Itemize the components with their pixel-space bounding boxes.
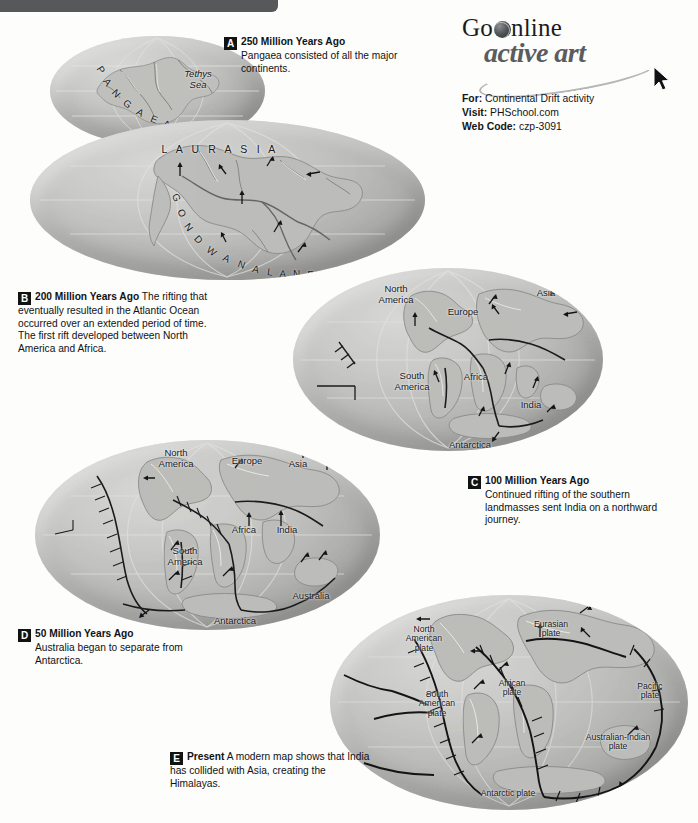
continents-present (330, 595, 688, 810)
step-badge-c: C (468, 476, 481, 489)
step-heading-b: 200 Million Years Ago (35, 291, 139, 302)
step-badge-d: D (18, 629, 31, 642)
logo-info-block: For: Continental Drift activity Visit: P… (462, 92, 594, 134)
logo-webcode-label: Web Code: (462, 121, 516, 132)
caption-step-e: EPresent A modern map shows that India h… (170, 751, 378, 790)
caption-step-b: B200 Million Years Ago The rifting that … (18, 291, 208, 355)
active-art-logo[interactable]: Gonline active art For: Continental Drif… (462, 14, 698, 68)
step-text-d: Australia began to separate from Antarct… (18, 642, 208, 667)
globe-100-mya: North America Europe Asia South America … (293, 268, 603, 451)
step-badge-b: B (18, 292, 31, 305)
continents-100-mya (293, 268, 603, 451)
globe-icon (494, 21, 511, 38)
cursor-arrow-icon (652, 66, 672, 92)
label-gondwanaland: G O N D W A N A L A N D (30, 120, 425, 280)
globe-50-mya: North America Europe Asia South America … (35, 440, 380, 630)
step-heading-a: 250 Million Years Ago (241, 36, 345, 47)
logo-visit-line: Visit: PHSchool.com (462, 106, 594, 120)
step-heading-c: 100 Million Years Ago (485, 475, 589, 486)
step-text-a: Pangaea consisted of all the major conti… (224, 50, 404, 75)
logo-webcode-line: Web Code: czp-3091 (462, 120, 594, 134)
step-heading-d: 50 Million Years Ago (35, 628, 134, 639)
caption-step-c: C100 Million Years Ago Continued rifting… (468, 475, 684, 527)
logo-for-label: For: (462, 93, 482, 104)
continents-50-mya (35, 440, 380, 630)
caption-step-d: D50 Million Years Ago Australia began to… (18, 628, 208, 667)
caption-step-a: A250 Million Years Ago Pangaea consisted… (224, 36, 404, 75)
logo-visit-value[interactable]: PHSchool.com (490, 107, 559, 118)
step-text-c: Continued rifting of the southern landma… (468, 489, 684, 527)
page-header-bar (0, 0, 278, 12)
logo-webcode-value: czp-3091 (519, 121, 562, 132)
step-badge-e: E (170, 752, 183, 765)
logo-for-value: Continental Drift activity (485, 93, 594, 104)
figure-canvas: P A N G A E A Tethys Sea A250 Million Ye… (0, 0, 698, 823)
globe-200-mya: L A U R A S I A G O N D W A N A L A N D (30, 120, 425, 280)
logo-for-line: For: Continental Drift activity (462, 92, 594, 106)
step-heading-e: Present (187, 751, 224, 762)
globe-present: North American plate Eurasian plate Afri… (330, 595, 688, 810)
step-badge-a: A (224, 37, 237, 50)
logo-visit-label: Visit: (462, 107, 487, 118)
